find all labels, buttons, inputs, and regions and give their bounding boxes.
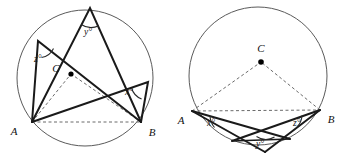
left-angle-label-z: z° — [33, 54, 42, 64]
right-angle-label-y: y° — [255, 139, 264, 149]
left-angle-label-x: x° — [124, 87, 133, 97]
left-circle-group: C A B z° y° x° — [10, 8, 156, 146]
right-circle-group: C A B x° y° z° — [177, 7, 335, 152]
left-point-b-label: B — [149, 126, 156, 138]
left-triangle-y-vertex — [32, 8, 141, 122]
left-center-label: C — [52, 62, 60, 74]
left-center-dot — [68, 71, 73, 76]
right-angle-label-x: x° — [206, 118, 215, 128]
right-radius-b-to-center — [261, 62, 320, 110]
left-triangle-z-vertex — [32, 41, 141, 122]
geometry-figure-container: C A B z° y° x° C — [0, 0, 343, 160]
geometry-diagram: C A B z° y° x° C — [0, 0, 343, 160]
right-center-label: C — [257, 42, 265, 54]
right-dashed-chord-ab — [192, 110, 320, 111]
right-chord-b-to-apex — [265, 110, 320, 152]
left-point-a-label: A — [10, 125, 18, 137]
right-point-b-label: B — [328, 113, 335, 125]
right-radius-a-to-center — [192, 62, 261, 111]
right-chord-a-to-apex — [192, 111, 265, 152]
right-angle-label-z: z° — [292, 118, 301, 128]
right-center-dot — [258, 59, 264, 65]
left-angle-label-y: y° — [83, 27, 92, 37]
right-point-a-label: A — [177, 114, 185, 126]
